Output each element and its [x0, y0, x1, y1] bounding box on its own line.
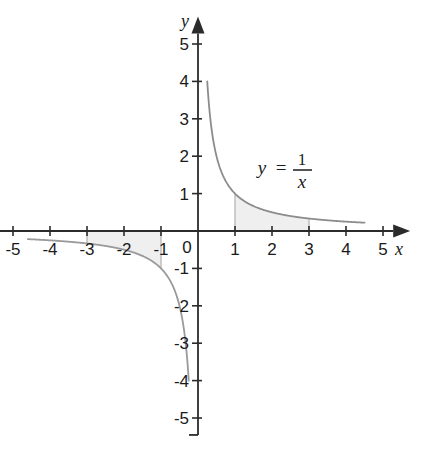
y-tick-label--4: -4	[174, 372, 189, 391]
equation-equals: =	[276, 157, 287, 178]
y-tick-label-1: 1	[180, 185, 189, 204]
equation-y: y	[256, 157, 267, 178]
y-tick-label--3: -3	[174, 334, 189, 353]
equation-denominator: x	[297, 171, 307, 192]
x-tick-label--3: -3	[79, 240, 94, 259]
equation-label: y = 1 x	[256, 150, 312, 192]
y-tick-label-4: 4	[180, 72, 189, 91]
curve-positive-branch	[207, 81, 364, 222]
x-tick-label-3: 3	[304, 240, 313, 259]
x-tick-label-5: 5	[378, 240, 387, 259]
x-tick-label--4: -4	[42, 240, 57, 259]
y-tick-label-5: 5	[180, 35, 189, 54]
x-tick-label--2: -2	[116, 240, 131, 259]
y-tick-label--5: -5	[174, 409, 189, 428]
x-tick-label--5: -5	[5, 240, 20, 259]
curve-negative-branch	[28, 239, 189, 380]
x-axis-label: x	[394, 239, 403, 259]
y-tick-label--1: -1	[174, 259, 189, 278]
x-tick-label-1: 1	[230, 240, 239, 259]
function-plot: -5-4-3-2-1012345 -5-4-3-2-112345 x y y =…	[0, 0, 422, 451]
x-axis-arrowhead	[393, 225, 410, 238]
x-tick-label-0: 0	[182, 238, 191, 257]
graph-figure: -5-4-3-2-1012345 -5-4-3-2-112345 x y y =…	[0, 0, 422, 451]
y-tick-label-3: 3	[180, 110, 189, 129]
y-tick-label-2: 2	[180, 147, 189, 166]
equation-numerator: 1	[298, 150, 307, 169]
y-tick-label--2: -2	[174, 297, 189, 316]
x-tick-label-2: 2	[267, 240, 276, 259]
y-axis-arrowhead	[192, 17, 205, 34]
x-tick-label--1: -1	[153, 240, 168, 259]
y-axis-label: y	[179, 11, 189, 31]
x-tick-label-4: 4	[341, 240, 350, 259]
